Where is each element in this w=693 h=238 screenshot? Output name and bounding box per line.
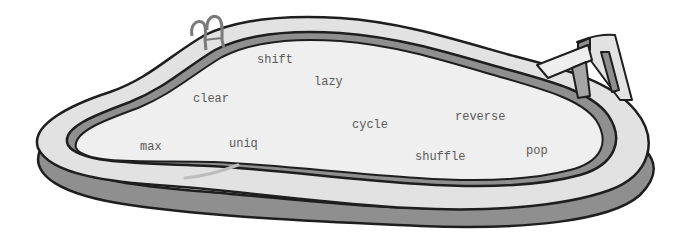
word-pop: pop bbox=[526, 145, 548, 157]
word-lazy: lazy bbox=[314, 76, 343, 88]
word-shift: shift bbox=[257, 54, 293, 66]
pool-illustration: shift lazy clear reverse cycle max uniq … bbox=[0, 0, 693, 238]
word-cycle: cycle bbox=[352, 119, 388, 131]
word-max: max bbox=[140, 141, 162, 153]
word-uniq: uniq bbox=[229, 138, 258, 150]
pool-drawing bbox=[0, 0, 693, 238]
word-shuffle: shuffle bbox=[415, 151, 465, 163]
word-reverse: reverse bbox=[455, 111, 505, 123]
word-clear: clear bbox=[193, 93, 229, 105]
